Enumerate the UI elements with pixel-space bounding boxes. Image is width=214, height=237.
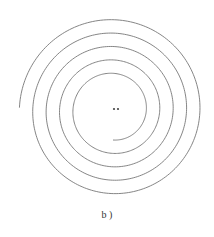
figure-caption: b ) [0, 209, 214, 220]
spiral-curve [19, 20, 200, 194]
center-dot-left [113, 108, 115, 110]
spiral-diagram [0, 0, 214, 237]
center-dot-right [117, 108, 119, 110]
